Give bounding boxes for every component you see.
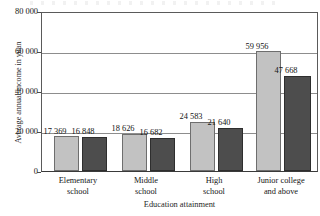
category-label-elementary-line1: Elementary <box>43 176 113 187</box>
bar-middle-light <box>122 134 147 171</box>
y-tick-label-80000: 80 000 <box>0 8 38 16</box>
value-label-high-light: 24 583 <box>176 113 206 121</box>
value-label-junior-college-light: 59 956 <box>242 43 272 51</box>
category-label-elementary-line2: school <box>43 187 113 198</box>
value-label-elementary-dark: 16 848 <box>68 128 98 136</box>
plot-area <box>41 12 318 172</box>
category-label-elementary: Elementary school <box>43 176 113 197</box>
y-tick-label-40000: 40 000 <box>0 88 38 96</box>
bar-elementary-dark <box>82 137 107 171</box>
category-label-high-line1: High <box>179 176 249 187</box>
category-label-junior-college-line2: and above <box>243 187 319 198</box>
scan-artifact <box>30 1 280 5</box>
category-label-junior-college: Junior college and above <box>243 176 319 197</box>
bar-elementary-light <box>54 136 79 171</box>
category-label-middle-line2: school <box>111 187 181 198</box>
value-label-middle-light: 18 626 <box>108 125 138 133</box>
value-label-middle-dark: 16 682 <box>136 129 166 137</box>
y-tick-label-0: 0 <box>0 168 38 176</box>
category-label-junior-college-line1: Junior college <box>243 176 319 187</box>
category-label-middle-line1: Middle <box>111 176 181 187</box>
y-tick-mark-0 <box>37 172 41 173</box>
bar-middle-dark <box>150 138 175 171</box>
y-tick-label-20000: 20 000 <box>0 128 38 136</box>
category-label-middle: Middle school <box>111 176 181 197</box>
y-tick-label-60000: 60 000 <box>0 48 38 56</box>
bar-high-dark <box>218 128 243 171</box>
value-label-high-dark: 21 640 <box>204 119 234 127</box>
x-axis-title: Education attainment <box>41 200 318 209</box>
bar-junior-college-dark <box>284 76 311 171</box>
category-label-high: High school <box>179 176 249 197</box>
value-label-elementary-light: 17 369 <box>40 128 70 136</box>
category-label-high-line2: school <box>179 187 249 198</box>
bar-high-light <box>190 122 215 171</box>
value-label-junior-college-dark: 47 668 <box>271 67 301 75</box>
bar-chart: Average annual income in yuan 80 000 60 … <box>0 0 320 216</box>
